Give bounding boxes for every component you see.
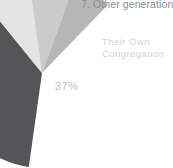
slice-value-their-own-congregation: 37% — [55, 80, 78, 93]
slice-label-line-2: Congregation — [102, 48, 164, 60]
slice-label-line-1: Their Own — [102, 36, 164, 48]
pie-chart-graphic — [0, 0, 173, 168]
slice-label-their-own-congregation: Their Own Congregation — [102, 36, 164, 60]
pie-chart-screenshot: 7. Other generations Their Own Congregat… — [0, 0, 173, 168]
chart-title: 7. Other generations — [81, 0, 173, 10]
